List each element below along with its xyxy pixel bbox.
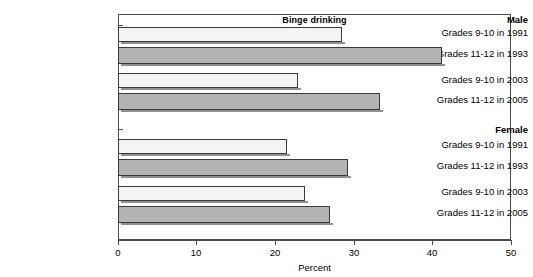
bar-male-grades-11-12-2005 bbox=[118, 93, 380, 110]
x-tick-label-30: 30 bbox=[349, 247, 360, 258]
x-tick-label-40: 40 bbox=[427, 247, 438, 258]
x-tick-40 bbox=[432, 240, 433, 245]
x-tick-0 bbox=[118, 240, 119, 245]
bar-shadow bbox=[121, 64, 445, 66]
x-tick-30 bbox=[354, 240, 355, 245]
category-label-male-4: Grades 11-12 in 2005 bbox=[415, 94, 533, 105]
x-tick-label-10: 10 bbox=[191, 247, 202, 258]
bar-shadow bbox=[121, 154, 290, 156]
x-tick-10 bbox=[196, 240, 197, 245]
group-label-female: Female bbox=[415, 124, 533, 135]
bar-male-grades-11-12-1993 bbox=[118, 47, 442, 64]
bar-female-grades-11-12-1993 bbox=[118, 159, 348, 176]
x-tick-label-50: 50 bbox=[506, 247, 517, 258]
bar-shadow bbox=[121, 42, 345, 44]
bar-shadow bbox=[121, 201, 308, 203]
bar-shadow bbox=[121, 223, 333, 225]
group-tick-female bbox=[118, 129, 123, 130]
bar-male-grades-9-10-1991 bbox=[118, 27, 342, 42]
category-label-female-4: Grades 11-12 in 2005 bbox=[415, 207, 533, 218]
bar-male-grades-9-10-2003 bbox=[118, 73, 298, 88]
binge-drinking-bar-chart: Binge drinking Male Grades 9-10 in 1991 … bbox=[0, 0, 533, 277]
bar-shadow bbox=[121, 110, 383, 112]
x-tick-20 bbox=[275, 240, 276, 245]
category-label-female-2: Grades 11-12 in 1993 bbox=[415, 160, 533, 171]
x-tick-50 bbox=[511, 240, 512, 245]
bar-female-grades-11-12-2005 bbox=[118, 206, 330, 223]
bar-female-grades-9-10-2003 bbox=[118, 186, 305, 201]
bar-female-grades-9-10-1991 bbox=[118, 139, 287, 154]
x-tick-label-20: 20 bbox=[270, 247, 281, 258]
category-label-male-1: Grades 9-10 in 1991 bbox=[415, 27, 533, 38]
bar-shadow bbox=[121, 176, 351, 178]
x-axis-line bbox=[118, 240, 511, 241]
group-tick-male bbox=[118, 25, 123, 26]
category-label-female-3: Grades 9-10 in 2003 bbox=[415, 186, 533, 197]
bar-shadow bbox=[121, 88, 301, 90]
x-tick-label-0: 0 bbox=[115, 247, 120, 258]
group-label-male: Male bbox=[415, 14, 533, 25]
x-axis-title: Percent bbox=[118, 262, 511, 273]
category-label-male-3: Grades 9-10 in 2003 bbox=[415, 74, 533, 85]
category-label-female-1: Grades 9-10 in 1991 bbox=[415, 139, 533, 150]
